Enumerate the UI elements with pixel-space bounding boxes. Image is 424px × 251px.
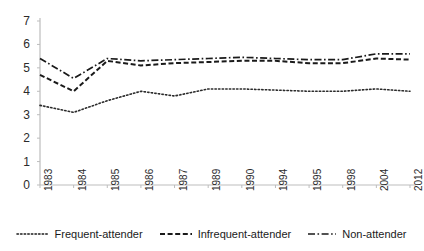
series-line-2 (40, 54, 410, 79)
x-tick-label: 1983 (44, 169, 54, 191)
y-tick-label: 1 (16, 156, 30, 168)
legend-line-swatch (16, 229, 50, 239)
x-tick-label: 1987 (179, 169, 189, 191)
legend-label: Infrequent-attender (198, 228, 292, 240)
axis-lines (40, 18, 416, 185)
y-tick-label: 7 (16, 15, 30, 27)
legend-label: Non-attender (342, 228, 406, 240)
legend-item: Infrequent-attender (159, 228, 292, 240)
series-line-0 (40, 89, 410, 112)
y-tick-label: 4 (16, 85, 30, 97)
legend-line-swatch (159, 229, 193, 239)
x-tick-label: 1985 (111, 169, 121, 191)
x-tick-label: 1990 (246, 169, 256, 191)
x-tick-label: 1984 (78, 169, 88, 191)
x-tick-label: 1989 (212, 169, 222, 191)
legend-item: Frequent-attender (16, 228, 143, 240)
x-tick-label: 1995 (313, 169, 323, 191)
chart-legend: Frequent-attenderInfrequent-attenderNon-… (0, 228, 422, 240)
legend-label: Frequent-attender (55, 228, 143, 240)
y-tick-label: 5 (16, 62, 30, 74)
series-line-1 (40, 58, 410, 91)
series-lines (40, 54, 410, 113)
y-tick-label: 6 (16, 38, 30, 50)
legend-line-swatch (307, 229, 337, 239)
x-tick-label: 1994 (279, 169, 289, 191)
legend-item: Non-attender (307, 228, 406, 240)
x-tick-label: 2004 (380, 169, 390, 191)
x-tick-label: 1998 (347, 169, 357, 191)
y-tick-label: 3 (16, 109, 30, 121)
axis-ticks (37, 21, 410, 188)
y-tick-label: 0 (16, 179, 30, 191)
y-tick-label: 2 (16, 132, 30, 144)
x-tick-label: 1986 (145, 169, 155, 191)
x-tick-label: 2012 (414, 169, 424, 191)
